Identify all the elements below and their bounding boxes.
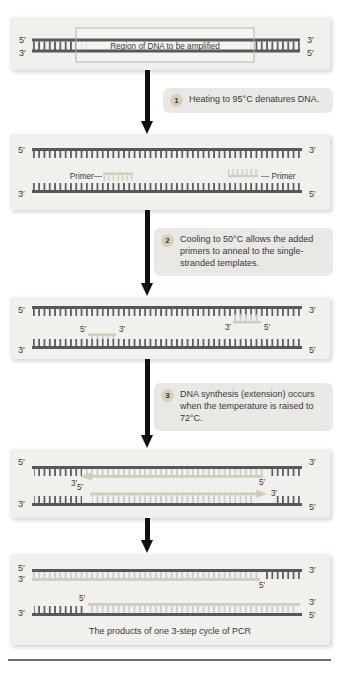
end-label-3prime: 3′ [309,145,316,155]
step-3-badge: 3 [161,389,174,402]
annealed-primer-left [88,334,116,340]
right-arrowhead-icon [256,490,267,498]
end-label-5prime: 5′ [18,563,25,573]
end-label-3prime: 3′ [309,565,316,575]
primer-label-left: Primer— [70,172,103,181]
end-label-5prime: 5′ [309,502,316,512]
end-label-3prime: 3′ [18,608,25,618]
primer-5prime-label: 5′ [264,323,271,332]
down-arrowhead-icon [141,283,153,296]
bottom-template-strand [32,339,302,349]
end-label-5prime: 5′ [18,305,25,315]
end-label-5prime: 5′ [18,145,25,155]
template-strand [32,569,302,572]
end-label-3prime: 3′ [309,597,316,607]
product-2-duplex [32,603,302,616]
new-strand-leftward [80,469,263,481]
end-label-5prime: 5′ [309,345,316,355]
annealed-primer-right [233,314,261,323]
step-3-callout: 3 DNA synthesis (extension) occurs when … [154,383,333,431]
end-label-3prime: 3′ [18,345,25,355]
down-arrowhead-icon [141,435,153,448]
down-arrowhead-icon [141,121,153,134]
down-arrow-icon [145,70,150,122]
step-2-text: Cooling to 50°C allows the added primers… [180,234,326,270]
primer-label-right: — Primer [261,172,296,181]
free-primer-right [228,169,258,177]
top-template-strand [32,148,302,158]
end-label-3prime: 3′ [18,189,25,199]
primer-5prime-label: 5′ [80,325,87,334]
region-label: Region of DNA to be amplified [110,42,220,51]
panel-primers-annealed: 5′ 3′ 3′ 5′ 5′ 3′ 3′ 5′ [10,297,330,359]
down-arrow-icon [145,518,150,541]
end-label-3prime: 3′ [18,574,25,584]
bottom-template-strand [32,183,302,193]
end-label-3prime: 3′ [19,48,26,58]
step-3-text: DNA synthesis (extension) occurs when th… [180,389,326,425]
top-template-strand [32,306,302,316]
down-arrow-icon [145,359,150,435]
panel-dsdna-template: Region of DNA to be amplified 5′ 3′ 3′ 5… [10,17,330,70]
end-label-3prime: 3′ [309,457,316,467]
new-strand [32,578,260,581]
step-2-badge: 2 [161,234,174,247]
pcr-diagram: Region of DNA to be amplified 5′ 3′ 3′ 5… [0,0,339,675]
step-1-text: Heating to 95°C denatures DNA. [189,94,319,106]
panel-products: 5′ 3′ 5′ 3′ 5′ 3′ 3′ 5′ The products of … [10,554,330,645]
step-2-callout: 2 Cooling to 50°C allows the added prime… [154,228,333,276]
new-strand-5prime-label: 5′ [259,478,266,487]
down-arrowhead-icon [141,540,153,553]
primer-3prime-label: 3′ [225,323,232,332]
step-1-badge: 1 [170,94,183,107]
unpaired-teeth [264,572,300,579]
template-strand [32,613,302,616]
end-label-5prime: 5′ [309,610,316,620]
panel-denatured-strands: 5′ 3′ Primer— — Primer 3′ 5′ [10,134,330,210]
new-strand [88,603,300,606]
figure-caption: The products of one 3-step cycle of PCR [89,626,252,636]
new-strand-5prime-label: 5′ [77,483,84,492]
step-1-callout: 1 Heating to 95°C denatures DNA. [163,88,333,113]
new-strand-5prime-label: 5′ [79,594,86,603]
end-label-3prime: 3′ [307,35,314,45]
product-1-duplex [32,569,302,581]
end-label-5prime: 5′ [307,48,314,58]
end-label-3prime: 3′ [309,305,316,315]
dsdna-ladder: Region of DNA to be amplified [32,28,300,62]
bottom-divider [8,659,331,661]
new-strand-rightward [90,490,267,503]
end-label-5prime: 5′ [18,457,25,467]
new-strand-5prime-label: 5′ [259,581,266,590]
unpaired-teeth [34,606,84,613]
end-label-3prime: 3′ [18,499,25,509]
primer-3prime-label: 3′ [119,325,126,334]
end-label-5prime: 5′ [309,189,316,199]
down-arrow-icon [145,210,150,284]
panel-extension: 5′ 3′ 3′ 5′ 5′ 3′ [10,449,330,518]
end-label-5prime: 5′ [19,35,26,45]
free-primer-left [103,173,133,181]
